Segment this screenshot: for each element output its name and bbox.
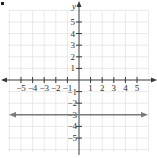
line-arrow-right-icon <box>141 112 148 118</box>
x-tick-label: 3 <box>112 83 117 93</box>
x-tick-label: −3 <box>39 83 49 93</box>
y-tick-label: 2 <box>71 52 76 62</box>
y-tick-label: −2 <box>67 98 77 108</box>
x-axis-arrow-right-icon <box>151 78 157 83</box>
coordinate-plane: −5 −4 −3 −2 −1 1 2 3 4 5 y 5 4 3 2 1 −1 <box>0 0 157 158</box>
y-tick-label: 3 <box>71 40 76 50</box>
x-tick-label: −2 <box>51 83 61 93</box>
y-tick-label: 5 <box>71 17 76 27</box>
y-tick-label: −5 <box>67 133 77 143</box>
y-tick-label: −4 <box>67 121 77 131</box>
corner-mark <box>1 2 4 5</box>
x-tick-label: 1 <box>88 83 93 93</box>
y-axis: y 5 4 3 2 1 −1 −2 −3 −4 −5 <box>67 1 82 155</box>
y-axis-label: y <box>71 1 76 11</box>
x-tick-label: 2 <box>100 83 105 93</box>
y-tick-label: −1 <box>67 87 77 97</box>
x-axis-arrow-left-icon <box>1 78 7 83</box>
x-tick-label: 5 <box>135 83 140 93</box>
x-tick-label: −5 <box>16 83 26 93</box>
y-tick-label: 1 <box>71 63 76 73</box>
x-tick-label: 4 <box>123 83 128 93</box>
line-arrow-left-icon <box>9 112 16 118</box>
x-tick-label: −4 <box>28 83 38 93</box>
y-tick-label: 4 <box>71 29 76 39</box>
y-axis-arrow-up-icon <box>77 1 82 7</box>
